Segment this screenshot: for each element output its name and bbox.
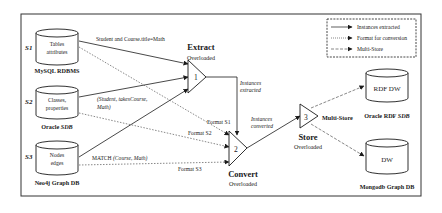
format-s1-label: Format S1 <box>207 119 231 125</box>
source-s2: S2 Classes, properties Oracle SDB <box>25 86 78 130</box>
convert-subtitle: Overloaded <box>229 181 257 187</box>
database-cylinder-icon <box>36 29 78 65</box>
target-mongodb-dw: DW Mongodb Graph DB <box>360 139 415 190</box>
extract-operator: 1 Extract Overloaded <box>187 42 215 93</box>
svg-text:properties: properties <box>46 105 68 111</box>
store-title: Store <box>298 132 317 142</box>
source-s1: S1 Tables attributes MySQL RDBMS <box>25 29 80 74</box>
multi-store-label: Multi-Store <box>322 114 353 121</box>
format-s2-label: Format S2 <box>188 130 212 136</box>
legend: Instances extracted Format for conversio… <box>327 19 416 57</box>
store-to-mongodb-arrow <box>311 124 364 156</box>
svg-text:Classes,: Classes, <box>48 97 67 103</box>
store-subtitle: Overloaded <box>294 144 322 150</box>
legend-multi-store: Multi-Store <box>357 46 384 52</box>
svg-text:2: 2 <box>234 145 238 154</box>
db-label-mysql: MySQL RDBMS <box>35 67 80 74</box>
svg-text:Instances: Instances <box>250 116 272 122</box>
extract-subtitle: Overloaded <box>187 55 215 61</box>
database-cylinder-icon <box>36 141 78 175</box>
svg-text:Tables: Tables <box>50 41 65 47</box>
svg-text:edges: edges <box>51 160 64 166</box>
source-id-s2: S2 <box>25 98 33 106</box>
source-s3: S3 Nodes edges Neo4j Graph DB <box>25 141 79 186</box>
db-label-oracle-sdb: Oracle SDB <box>41 123 72 130</box>
db-label-mongodb: Mongodb Graph DB <box>360 183 415 190</box>
source-id-s1: S1 <box>25 44 32 52</box>
operator-triangle-icon <box>229 131 247 166</box>
convert-operator: 2 Convert Overloaded <box>228 131 258 187</box>
legend-format-for-conversion: Format for conversion <box>357 35 407 41</box>
svg-text:attributes: attributes <box>47 49 68 55</box>
convert-title: Convert <box>228 169 258 179</box>
legend-instances-extracted: Instances extracted <box>357 24 400 30</box>
query-s3: MATCH (Course, Math) <box>92 155 148 162</box>
svg-text:Instances: Instances <box>239 80 261 86</box>
extract-to-convert-arrow <box>206 77 237 135</box>
db-label-neo4j: Neo4j Graph DB <box>35 179 80 186</box>
svg-text:Nodes: Nodes <box>50 152 64 158</box>
query-s2-line1: (Student, takesCourse, <box>97 96 148 103</box>
extract-title: Extract <box>187 42 215 52</box>
store-to-rdf-arrow <box>311 86 364 108</box>
source-id-s3: S3 <box>25 153 33 161</box>
svg-text:3: 3 <box>304 113 308 122</box>
svg-text:converted: converted <box>251 123 273 129</box>
query-s1: Student and Course.title=Math <box>96 36 165 42</box>
target-rdf-dw: RDF DW Oracle RDF SDB <box>364 69 410 119</box>
db-label-oracle-rdf: Oracle RDF SDB <box>364 112 410 119</box>
svg-text:1: 1 <box>194 73 198 82</box>
store-operator: 3 Multi-Store Store Overloaded <box>294 104 353 150</box>
svg-text:DW: DW <box>381 156 393 164</box>
operator-triangle-icon <box>300 104 318 128</box>
format-s3-label: Format S3 <box>178 166 202 172</box>
query-s2-line2: Math) <box>96 104 111 111</box>
svg-text:RDF DW: RDF DW <box>373 85 400 93</box>
svg-text:extracted: extracted <box>240 87 261 93</box>
etl-architecture-diagram: Instances extracted Format for conversio… <box>0 0 442 213</box>
